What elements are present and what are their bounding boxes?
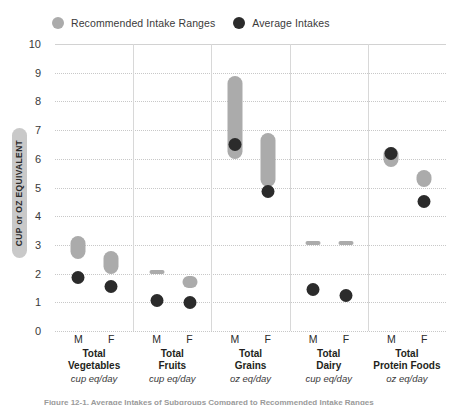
average-dot [418, 195, 431, 208]
group-name-line2: Vegetables [68, 360, 120, 372]
gridline-0 [55, 331, 446, 332]
range-bar [260, 133, 275, 188]
range-bar [182, 276, 197, 287]
y-axis-tick-6: 6 [35, 153, 41, 165]
chart-legend: Recommended Intake Ranges Average Intake… [52, 14, 330, 32]
legend-label-recommended-ranges: Recommended Intake Ranges [71, 17, 215, 29]
range-bar [71, 236, 86, 259]
chart-plot-area: 012345678910 [46, 44, 446, 331]
group-name-line2: Protein Foods [373, 360, 440, 372]
average-dot [150, 294, 163, 307]
y-axis-tick-10: 10 [29, 38, 41, 50]
legend-item-recommended-ranges: Recommended Intake Ranges [52, 17, 215, 29]
legend-item-average-intakes: Average Intakes [233, 17, 329, 29]
group-name-line2: Fruits [149, 360, 195, 372]
range-dot-icon [52, 17, 64, 29]
gridline-3 [55, 245, 446, 246]
gridline-4 [55, 216, 446, 217]
gridline-9 [55, 73, 446, 74]
average-dot [385, 147, 398, 160]
y-axis-tick-8: 8 [35, 95, 41, 107]
group-unit: cup eq/day [149, 373, 195, 385]
gridline-2 [55, 274, 446, 275]
group-name-line1: Total [230, 348, 271, 360]
group-unit: cup eq/day [305, 373, 351, 385]
group-name-line1: Total [373, 348, 440, 360]
range-bar [338, 241, 353, 245]
average-dot [228, 138, 241, 151]
average-dot-icon [233, 17, 245, 29]
x-axis-sex-tick-M: M [309, 333, 318, 345]
group-separator [368, 44, 369, 331]
chart-canvas: 012345678910 [55, 44, 446, 331]
y-axis-tick-4: 4 [35, 210, 41, 222]
x-axis-group-label: TotalGrainsoz eq/day [230, 348, 271, 385]
group-unit: oz eq/day [373, 373, 440, 385]
y-axis-tick-5: 5 [35, 182, 41, 194]
average-dot [339, 289, 352, 302]
gridline-8 [55, 101, 446, 102]
x-axis-sex-tick-F: F [108, 333, 114, 345]
x-axis-sex-tick-F: F [421, 333, 427, 345]
average-dot [183, 296, 196, 309]
y-axis-tick-3: 3 [35, 239, 41, 251]
legend-label-average-intakes: Average Intakes [252, 17, 329, 29]
y-axis-tick-1: 1 [35, 296, 41, 308]
gridline-1 [55, 302, 446, 303]
x-axis-group-label: TotalVegetablescup eq/day [68, 348, 120, 385]
x-axis-group-label: TotalDairycup eq/day [305, 348, 351, 385]
y-axis-tick-9: 9 [35, 67, 41, 79]
figure-caption: Figure 12-1. Average Intakes of Subgroup… [44, 398, 444, 405]
x-axis: MFTotalVegetablescup eq/dayMFTotalFruits… [55, 333, 446, 403]
x-axis-group-label: TotalProtein Foodsoz eq/day [373, 348, 440, 385]
gridline-5 [55, 188, 446, 189]
y-axis-title-label: CUP or OZ EQUIVALENT [15, 140, 25, 246]
group-name-line1: Total [149, 348, 195, 360]
group-unit: cup eq/day [68, 373, 120, 385]
group-name-line1: Total [68, 348, 120, 360]
group-separator [133, 44, 134, 331]
range-bar [417, 170, 432, 187]
gridline-7 [55, 130, 446, 131]
y-axis-tick-2: 2 [35, 268, 41, 280]
range-bar [306, 241, 321, 245]
x-axis-sex-tick-M: M [152, 333, 161, 345]
range-bar [104, 251, 119, 274]
x-axis-sex-tick-F: F [343, 333, 349, 345]
average-dot [72, 271, 85, 284]
gridline-10 [55, 44, 446, 45]
group-name-line2: Dairy [305, 360, 351, 372]
range-bar [149, 270, 164, 274]
y-axis-tick-7: 7 [35, 124, 41, 136]
average-dot [307, 283, 320, 296]
group-separator [290, 44, 291, 331]
group-separator [211, 44, 212, 331]
group-unit: oz eq/day [230, 373, 271, 385]
x-axis-group-label: TotalFruitscup eq/day [149, 348, 195, 385]
group-name-line1: Total [305, 348, 351, 360]
y-axis-title: CUP or OZ EQUIVALENT [12, 128, 27, 258]
average-dot [105, 280, 118, 293]
x-axis-sex-tick-M: M [74, 333, 83, 345]
group-name-line2: Grains [230, 360, 271, 372]
x-axis-sex-tick-F: F [264, 333, 270, 345]
x-axis-sex-tick-M: M [230, 333, 239, 345]
x-axis-sex-tick-F: F [186, 333, 192, 345]
y-axis-tick-0: 0 [35, 325, 41, 337]
x-axis-sex-tick-M: M [387, 333, 396, 345]
average-dot [261, 185, 274, 198]
